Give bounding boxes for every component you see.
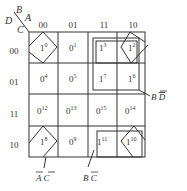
leader-BCbar: [88, 150, 94, 167]
cell-3-1: 09: [69, 136, 77, 147]
label-BDbar: B D: [151, 92, 166, 102]
kmap-svg: B A D C 00 01 11 10 00 01 11 10 10 01 13…: [0, 0, 187, 191]
leader-ACbar: [44, 157, 46, 168]
label-BCbar: B C: [83, 173, 98, 183]
label-ACbar: A C: [35, 173, 51, 183]
col-label-3: 10: [129, 20, 139, 30]
cell-3-0: 18: [40, 136, 48, 147]
var-C: C: [17, 24, 24, 35]
row-label-1: 01: [10, 77, 19, 87]
loop-BCbar: [97, 131, 142, 157]
cell-3-3: 110: [126, 136, 137, 147]
karnaugh-map: B A D C 00 01 11 10 00 01 11 10 10 01 13…: [0, 0, 187, 191]
cell-0-2: 13: [99, 42, 107, 53]
cell-0-1: 01: [69, 42, 77, 53]
cell-2-1: 013: [66, 105, 77, 116]
col-label-0: 00: [39, 20, 49, 30]
cell-2-0: 012: [37, 105, 48, 116]
row-label-2: 11: [10, 109, 19, 119]
var-B: B: [16, 4, 22, 15]
cell-0-3: 12: [128, 42, 136, 53]
cell-3-2: 111: [97, 136, 107, 147]
col-label-1: 01: [69, 20, 78, 30]
cell-2-3: 014: [125, 105, 136, 116]
cell-1-2: 17: [99, 73, 107, 84]
cell-1-1: 05: [69, 73, 77, 84]
cell-1-3: 16: [128, 73, 136, 84]
col-label-2: 11: [100, 20, 109, 30]
var-A: A: [24, 12, 32, 23]
row-label-3: 10: [10, 140, 20, 150]
cell-0-0: 10: [40, 42, 48, 53]
row-label-0: 00: [10, 46, 20, 56]
cell-1-0: 04: [40, 73, 48, 84]
cell-2-2: 015: [96, 105, 107, 116]
var-D: D: [4, 15, 13, 26]
